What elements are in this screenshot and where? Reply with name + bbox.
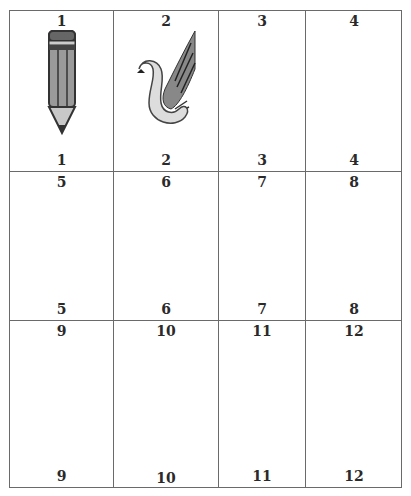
grid-cell-4: 4 4 [306,11,402,172]
cell-number-top: 9 [10,323,113,339]
grid-cell-6: 6 6 [114,172,219,321]
swan-icon [135,29,197,135]
cell-number-top: 10 [114,323,218,339]
grid-cell-5: 5 5 [10,172,114,321]
grid-cell-10: 10 10 [114,321,219,487]
grid-cell-9: 9 9 [10,321,114,487]
cell-number-bottom: 2 [114,152,218,168]
cell-number-bottom: 8 [306,301,402,317]
cell-number-bottom: 12 [306,468,402,484]
cell-number-top: 4 [306,13,402,29]
cell-number-top: 5 [10,174,113,190]
cell-number-top: 7 [219,174,305,190]
cell-number-bottom: 4 [306,152,402,168]
cell-number-bottom: 5 [10,301,113,317]
grid-cell-7: 7 7 [219,172,306,321]
cell-number-bottom: 11 [219,468,305,484]
cell-number-bottom: 1 [10,152,113,168]
grid-cell-2: 2 2 [114,11,219,172]
cell-number-bottom: 10 [114,470,218,486]
cell-number-bottom: 7 [219,301,305,317]
pencil-icon [46,29,78,137]
grid-cell-11: 11 11 [219,321,306,487]
cell-number-top: 3 [219,13,305,29]
cell-number-bottom: 9 [10,468,113,484]
cell-number-bottom: 3 [219,152,305,168]
grid-cell-8: 8 8 [306,172,402,321]
grid-cell-1: 1 1 [10,11,114,172]
grid-cell-12: 12 12 [306,321,402,487]
grid-cell-3: 3 3 [219,11,306,172]
cell-number-top: 1 [10,13,113,29]
cell-number-top: 11 [219,323,305,339]
picture-grid: 1 1 2 2 3 3 4 4 5 5 [9,10,402,488]
cell-number-top: 12 [306,323,402,339]
cell-number-top: 8 [306,174,402,190]
cell-number-bottom: 6 [114,301,218,317]
cell-number-top: 6 [114,174,218,190]
cell-number-top: 2 [114,13,218,29]
